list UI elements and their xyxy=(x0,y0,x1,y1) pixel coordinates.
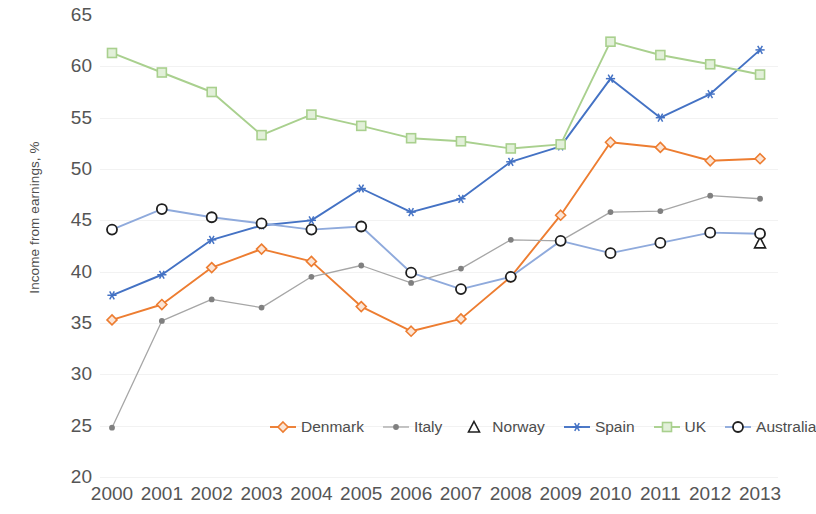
data-point-diamond xyxy=(705,156,715,166)
legend-item-norway[interactable]: Norway xyxy=(459,418,545,436)
data-point-diamond xyxy=(755,154,765,164)
data-point-circle xyxy=(207,212,217,222)
data-point-square xyxy=(307,110,316,119)
data-point-diamond xyxy=(278,422,288,432)
data-point-square xyxy=(706,60,715,69)
legend-label: Denmark xyxy=(300,418,364,436)
data-point-star xyxy=(572,423,581,431)
legend-label: Norway xyxy=(491,418,545,436)
data-point-circle xyxy=(157,204,167,214)
data-point-dot xyxy=(209,296,215,302)
data-point-dot xyxy=(393,424,399,430)
legend-item-spain[interactable]: Spain xyxy=(562,418,635,436)
data-point-circle xyxy=(755,229,765,239)
chart-legend: DenmarkItalyNorwaySpainUKAustralia xyxy=(268,414,816,440)
data-point-dot xyxy=(707,193,713,199)
data-point-diamond xyxy=(107,315,117,325)
data-point-circle xyxy=(705,228,715,238)
data-point-dot xyxy=(159,318,165,324)
data-point-dot xyxy=(508,237,514,243)
data-point-square xyxy=(108,48,117,57)
data-point-circle xyxy=(107,225,117,235)
data-point-star xyxy=(107,291,116,299)
data-point-star xyxy=(407,208,416,216)
legend-marker-dot-icon xyxy=(381,419,411,435)
data-point-dot xyxy=(657,208,663,214)
data-point-dot xyxy=(458,266,464,272)
legend-marker-circle-icon xyxy=(723,419,753,435)
data-point-square xyxy=(606,37,615,46)
data-point-circle xyxy=(733,422,743,432)
data-point-dot xyxy=(309,274,315,280)
data-point-diamond xyxy=(655,142,665,152)
data-point-circle xyxy=(606,248,616,258)
data-point-dot xyxy=(109,425,115,431)
data-point-square xyxy=(456,137,465,146)
series-denmark xyxy=(107,137,765,336)
data-point-dot xyxy=(358,263,364,269)
legend-label: UK xyxy=(684,418,707,436)
data-point-diamond xyxy=(257,244,267,254)
legend-label: Spain xyxy=(594,418,635,436)
data-point-circle xyxy=(655,238,665,248)
legend-marker-triangle-icon xyxy=(459,419,489,435)
data-point-circle xyxy=(257,218,267,228)
series-australia xyxy=(107,204,765,294)
data-point-circle xyxy=(506,272,516,282)
series-italy xyxy=(109,193,763,431)
data-point-square xyxy=(656,51,665,60)
data-point-circle xyxy=(306,225,316,235)
data-point-dot xyxy=(259,305,265,311)
data-point-square xyxy=(756,70,765,79)
legend-label: Italy xyxy=(413,418,442,436)
data-point-square xyxy=(407,134,416,143)
data-point-dot xyxy=(408,280,414,286)
data-point-square xyxy=(257,131,266,140)
legend-marker-diamond-icon xyxy=(268,419,298,435)
data-point-circle xyxy=(556,236,566,246)
data-point-circle xyxy=(456,284,466,294)
series-spain xyxy=(107,46,764,299)
data-point-square xyxy=(506,144,515,153)
legend-item-uk[interactable]: UK xyxy=(652,418,707,436)
legend-label: Australia xyxy=(755,418,816,436)
data-point-triangle xyxy=(469,422,480,433)
data-point-square xyxy=(662,423,671,432)
legend-item-australia[interactable]: Australia xyxy=(723,418,816,436)
legend-marker-star-icon xyxy=(562,419,592,435)
data-point-square xyxy=(157,68,166,77)
series-uk xyxy=(108,37,765,153)
legend-item-italy[interactable]: Italy xyxy=(381,418,442,436)
data-point-dot xyxy=(757,196,763,202)
legend-item-denmark[interactable]: Denmark xyxy=(268,418,364,436)
data-point-circle xyxy=(356,221,366,231)
data-point-square xyxy=(207,88,216,97)
data-point-dot xyxy=(608,209,614,215)
data-point-square xyxy=(556,140,565,149)
legend-marker-square-icon xyxy=(652,419,682,435)
data-point-circle xyxy=(406,268,416,278)
data-point-diamond xyxy=(406,326,416,336)
data-point-square xyxy=(357,121,366,130)
